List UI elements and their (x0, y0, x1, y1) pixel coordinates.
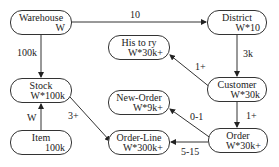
edge-label-warehouse-stock: 100k (17, 48, 37, 58)
edge-label-item-stock: W (27, 113, 36, 123)
node-new-order: New-Order W*9k+ (108, 90, 170, 115)
edge-label-customer-order: 1+ (246, 111, 257, 121)
node-cardinality: W*30k+ (128, 47, 163, 58)
node-history: His to ry W*30k+ (108, 35, 170, 60)
edge-label-stock-orderline: 3+ (68, 111, 79, 121)
node-stock: Stock W*100k (10, 78, 72, 103)
node-cardinality: W*30k+ (226, 140, 261, 151)
node-warehouse: Warehouse W (10, 10, 72, 35)
edge-label-district-customer: 3k (243, 49, 253, 59)
node-order-line: Order-Line W*300k+ (108, 130, 170, 155)
node-customer: Customer W*30k (207, 77, 267, 102)
er-diagram: Warehouse W District W*10 His to ry W*30… (0, 0, 279, 167)
node-order: Order W*30k+ (208, 128, 268, 153)
node-cardinality: W*100k (31, 90, 65, 101)
node-cardinality: W*9k+ (133, 102, 163, 113)
node-cardinality: W*10 (236, 22, 260, 33)
node-cardinality: W*300k+ (123, 142, 163, 153)
edge-label-customer-history: 1+ (195, 62, 206, 72)
node-cardinality: W (56, 22, 65, 33)
node-district: District W*10 (207, 10, 267, 35)
node-item: Item 100k (10, 130, 72, 155)
edge-label-order-orderline: 5-15 (181, 147, 199, 157)
edge-label-order-neworder: 0-1 (190, 112, 203, 122)
node-cardinality: W*30k (231, 89, 260, 100)
edge-label-warehouse-district: 10 (130, 10, 140, 20)
node-cardinality: 100k (45, 142, 65, 153)
